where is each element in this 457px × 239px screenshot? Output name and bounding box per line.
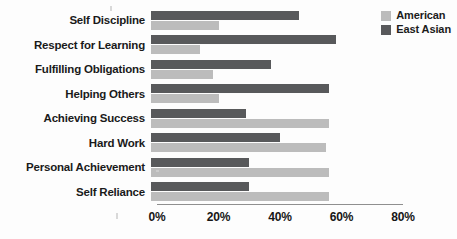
bar-pair (151, 57, 457, 82)
category-label: Helping Others (0, 88, 151, 100)
category-row: Self Reliance (0, 180, 457, 205)
x-tick-label: 40% (268, 210, 291, 224)
bar-pair (151, 155, 457, 180)
legend-item-east-asian: East Asian (381, 24, 451, 35)
bar-east-asian (151, 182, 249, 191)
bar-east-asian (151, 109, 246, 118)
category-row: Hard Work (0, 131, 457, 156)
category-label: Self Discipline (0, 14, 151, 26)
bar-pair (151, 106, 457, 131)
category-row: Respect for Learning (0, 33, 457, 58)
bar-pair (151, 33, 457, 58)
category-rows: Self DisciplineRespect for LearningFulfi… (0, 8, 457, 204)
category-label: Respect for Learning (0, 39, 151, 51)
category-label: Personal Achievement (0, 161, 151, 173)
bar-east-asian (151, 133, 280, 142)
x-axis-line (157, 204, 403, 205)
category-label: Hard Work (0, 137, 151, 149)
bar-east-asian (151, 84, 329, 93)
category-row: Personal Achievement (0, 155, 457, 180)
bar-american (151, 119, 329, 128)
chart-legend: American East Asian (381, 10, 451, 35)
bar-american (151, 94, 219, 103)
bar-american (151, 70, 213, 79)
bar-american (151, 168, 329, 177)
bar-east-asian (151, 60, 271, 69)
legend-swatch-east-asian (381, 25, 391, 35)
legend-item-american: American (381, 10, 451, 21)
bar-american (151, 143, 326, 152)
plot-area: Self DisciplineRespect for LearningFulfi… (0, 8, 457, 208)
x-tick-label: 0% (149, 210, 166, 224)
x-tick-label: 80% (391, 210, 414, 224)
bar-american (151, 21, 219, 30)
category-row: Achieving Success (0, 106, 457, 131)
legend-label-east-asian: East Asian (396, 24, 451, 35)
category-row: Helping Others (0, 82, 457, 107)
category-label: Self Reliance (0, 186, 151, 198)
bar-american (151, 192, 329, 201)
bar-east-asian (151, 35, 336, 44)
category-label: Fulfilling Obligations (0, 63, 151, 75)
bar-pair (151, 82, 457, 107)
bar-pair (151, 131, 457, 156)
legend-label-american: American (396, 10, 445, 21)
bar-pair (151, 180, 457, 205)
bar-american (151, 45, 200, 54)
category-row: Fulfilling Obligations (0, 57, 457, 82)
bar-east-asian (151, 158, 249, 167)
x-axis-tick-labels: 0%20%40%60%80% (0, 210, 457, 232)
scan-artifact (110, 6, 112, 11)
scan-artifact (116, 213, 118, 219)
x-tick-label: 60% (330, 210, 353, 224)
bar-east-asian (151, 11, 299, 20)
scan-artifact (156, 170, 159, 172)
legend-swatch-american (381, 11, 391, 21)
category-label: Achieving Success (0, 112, 151, 124)
x-tick-label: 20% (207, 210, 230, 224)
bar-chart: American East Asian Self DisciplineRespe… (0, 0, 457, 239)
